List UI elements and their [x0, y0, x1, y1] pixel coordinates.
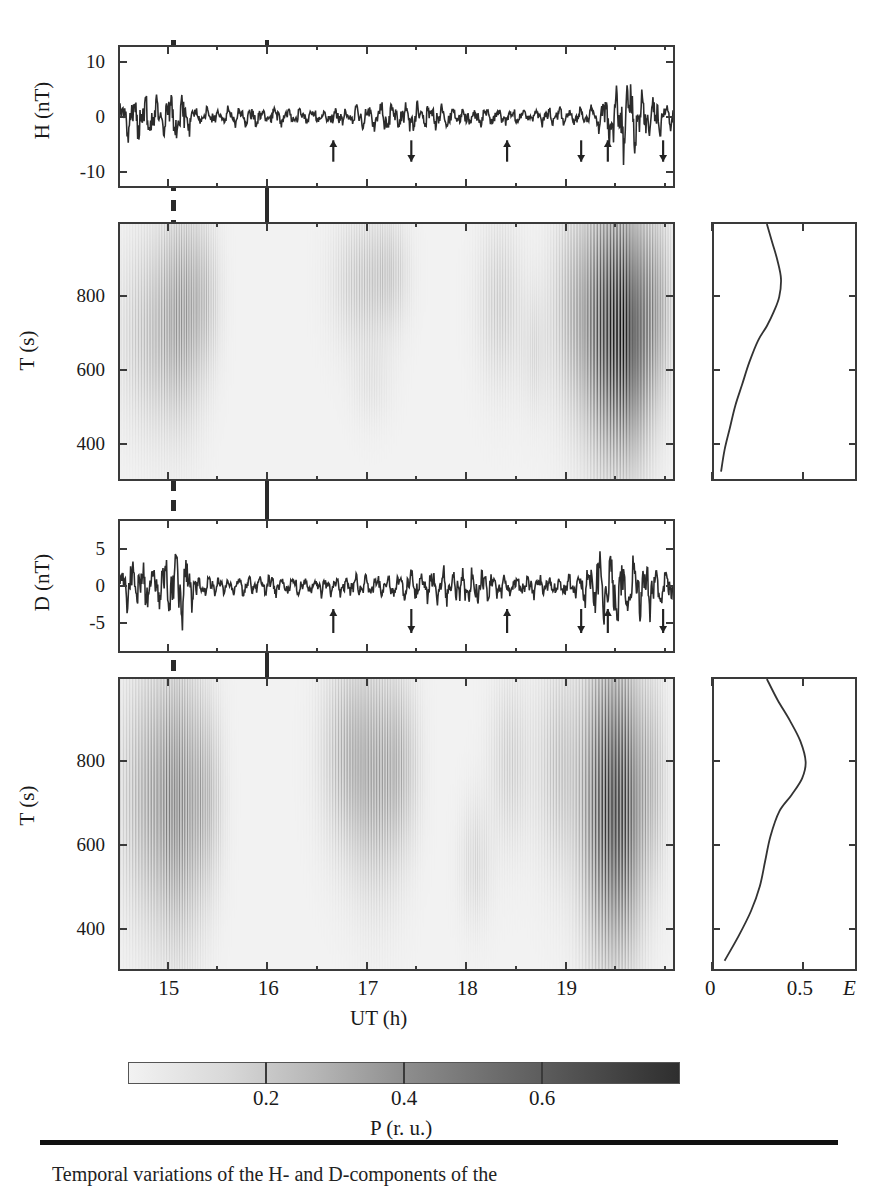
axis-tick: [465, 472, 467, 481]
axis-tick: [849, 295, 857, 297]
axis-tick: [266, 519, 268, 528]
axis-tick: [366, 962, 368, 971]
axis-tick: [711, 472, 713, 481]
event-arrow-down: [659, 609, 667, 633]
d-timeseries-trace: [120, 521, 673, 651]
axis-tick: [666, 585, 675, 587]
axis-tick: [515, 45, 517, 50]
axis-tick: [711, 962, 713, 971]
h-eprofile-curve: [714, 224, 855, 479]
axis-tick: [802, 677, 804, 686]
axis-tick: [712, 443, 720, 445]
axis-tick: [666, 61, 675, 63]
axis-tick: [664, 966, 666, 971]
d-ytick-label-0: 0: [63, 576, 105, 595]
hs-ytick-label-600: 600: [55, 360, 105, 379]
axis-tick: [614, 677, 616, 682]
axis-tick: [366, 45, 368, 54]
axis-tick: [565, 677, 567, 686]
axis-tick: [216, 45, 218, 50]
d-spectrogram-image: [120, 679, 673, 969]
figure-caption: Temporal variations of the H- and D-comp…: [52, 1162, 842, 1187]
axis-tick: [366, 179, 368, 188]
axis-tick: [664, 222, 666, 227]
colorbar-tick: [403, 1062, 405, 1084]
h-ytick-label-0: 0: [63, 107, 105, 126]
d-axis-title: D (nT): [32, 554, 53, 612]
axis-tick: [712, 760, 720, 762]
axis-tick: [565, 222, 567, 231]
h-ytick-label-10: 10: [63, 52, 105, 71]
axis-tick: [565, 179, 567, 188]
axis-tick: [666, 760, 675, 762]
axis-tick: [266, 472, 268, 481]
axis-tick: [565, 962, 567, 971]
axis-tick: [316, 183, 318, 188]
event-arrow-down: [577, 140, 585, 161]
axis-tick: [465, 519, 467, 528]
x-axis-title: UT (h): [350, 1008, 407, 1029]
axis-tick: [614, 476, 616, 481]
d-eprofile-curve: [714, 679, 855, 969]
xtick-label-18: 18: [455, 978, 479, 999]
axis-tick: [216, 519, 218, 524]
axis-tick: [666, 548, 675, 550]
axis-tick: [712, 928, 720, 930]
axis-tick: [849, 443, 857, 445]
axis-tick: [366, 472, 368, 481]
axis-tick: [711, 222, 713, 231]
event-arrow-down: [659, 140, 667, 161]
axis-tick: [118, 622, 127, 624]
axis-tick: [366, 644, 368, 653]
panel-h-timeseries: [118, 45, 675, 188]
axis-tick: [515, 519, 517, 524]
axis-tick: [167, 179, 169, 188]
axis-tick: [316, 648, 318, 653]
axis-tick: [664, 45, 666, 50]
event-arrow-down: [407, 609, 415, 633]
axis-tick: [515, 222, 517, 227]
panel-d-timeseries: [118, 519, 675, 653]
e-axis-title: E: [843, 978, 856, 999]
d-ytick-label-5: 5: [63, 539, 105, 558]
axis-tick: [849, 760, 857, 762]
event-arrow-up: [503, 609, 511, 633]
axis-tick: [118, 369, 127, 371]
axis-tick: [614, 45, 616, 50]
event-arrow-down: [577, 609, 585, 633]
axis-tick: [565, 644, 567, 653]
event-arrow-up: [329, 140, 337, 161]
axis-tick: [316, 476, 318, 481]
axis-tick: [666, 171, 675, 173]
axis-tick: [849, 844, 857, 846]
axis-tick: [118, 171, 127, 173]
axis-tick: [415, 45, 417, 50]
axis-tick: [565, 45, 567, 54]
colorbar-tick-label-04: 0.4: [385, 1088, 423, 1109]
etick-label-05: 0.5: [787, 978, 813, 999]
axis-tick: [167, 222, 169, 231]
axis-tick: [118, 116, 127, 118]
xtick-label-19: 19: [555, 978, 579, 999]
axis-tick: [118, 760, 127, 762]
axis-tick: [216, 966, 218, 971]
colorbar-title: P (r. u.): [370, 1118, 432, 1139]
axis-tick: [167, 45, 169, 54]
axis-tick: [118, 295, 127, 297]
axis-tick: [465, 45, 467, 54]
axis-tick: [515, 677, 517, 682]
axis-tick: [118, 61, 127, 63]
axis-tick: [316, 677, 318, 682]
colorbar-tick: [541, 1062, 543, 1084]
h-timeseries-trace: [120, 47, 673, 186]
axis-tick: [666, 116, 675, 118]
axis-tick: [712, 369, 720, 371]
etick-label-0: 0: [705, 978, 716, 999]
axis-tick: [664, 519, 666, 524]
axis-tick: [266, 677, 268, 686]
colorbar-tick-label-02: 0.2: [247, 1088, 285, 1109]
axis-tick: [366, 519, 368, 528]
event-arrow-down: [407, 140, 415, 161]
axis-tick: [515, 476, 517, 481]
axis-tick: [666, 844, 675, 846]
